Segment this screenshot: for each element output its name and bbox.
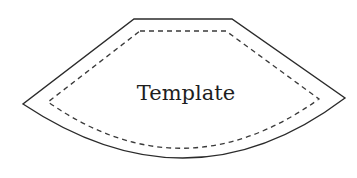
template-label: Template	[137, 81, 235, 105]
template-diagram: Template	[0, 0, 357, 178]
